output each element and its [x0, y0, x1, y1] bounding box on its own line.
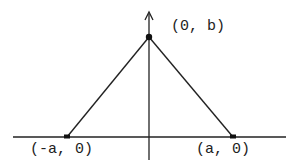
left-point — [64, 135, 70, 139]
apex-point — [146, 34, 152, 40]
left-edge — [67, 37, 149, 137]
left-point-label: (-a, 0) — [30, 142, 93, 157]
right-point — [230, 135, 236, 139]
right-edge — [149, 37, 233, 137]
apex-label: (0, b) — [171, 19, 225, 34]
right-point-label: (a, 0) — [196, 142, 250, 157]
